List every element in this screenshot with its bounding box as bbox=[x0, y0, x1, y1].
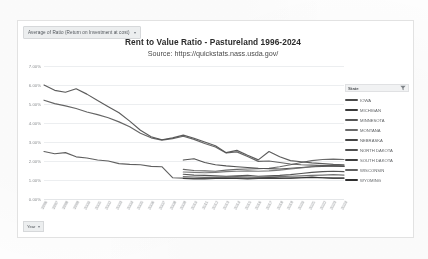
x-axis-tick-label: 2019 bbox=[286, 200, 295, 210]
legend-swatch bbox=[345, 99, 358, 101]
x-axis-tick-label: 2016 bbox=[254, 200, 263, 210]
legend-item-label: IOWA bbox=[360, 98, 371, 103]
x-axis-tick-label: 2009 bbox=[179, 200, 188, 210]
x-axis-tick-label: 2007 bbox=[158, 200, 167, 210]
legend-swatch bbox=[345, 159, 358, 161]
legend-rows: IOWAMICHIGANMINNESOTAMONTANANEBRASKANORT… bbox=[345, 95, 409, 185]
legend-item-label: NEBRASKA bbox=[360, 138, 383, 143]
x-axis-tick-label: 2013 bbox=[222, 200, 231, 210]
chart-subtitle-source: Source: https://quickstats.nass.usda.gov… bbox=[78, 49, 348, 58]
y-axis-tick-label: 5.00% bbox=[29, 102, 41, 107]
y-axis-tick-label: 3.00% bbox=[29, 140, 41, 145]
plot-area bbox=[44, 66, 344, 199]
x-axis-tick-label: 2003 bbox=[115, 200, 124, 210]
series-line bbox=[44, 85, 344, 165]
legend-item[interactable]: SOUTH DAKOTA bbox=[345, 155, 409, 165]
legend-header-label: State bbox=[348, 86, 359, 91]
x-axis-tick-label: 2018 bbox=[275, 200, 284, 210]
y-axis-tick-label: 0.00% bbox=[29, 197, 41, 202]
legend-item[interactable]: WYOMING bbox=[345, 175, 409, 185]
legend-item[interactable]: MINNESOTA bbox=[345, 115, 409, 125]
legend-swatch bbox=[345, 109, 358, 111]
x-axis-tick-label: 1997 bbox=[50, 200, 59, 210]
legend-swatch bbox=[345, 169, 358, 171]
legend-item[interactable]: NORTH DAKOTA bbox=[345, 145, 409, 155]
x-axis-tick-label: 2020 bbox=[297, 200, 306, 210]
filter-icon[interactable] bbox=[400, 85, 406, 91]
legend-item[interactable]: IOWA bbox=[345, 95, 409, 105]
x-axis-tick-label: 1999 bbox=[72, 200, 81, 210]
x-axis-tick-label: 2006 bbox=[147, 200, 156, 210]
x-axis-tick-label: 2024 bbox=[340, 200, 349, 210]
legend-item-label: WISCONSIN bbox=[360, 168, 384, 173]
legend-item[interactable]: WISCONSIN bbox=[345, 165, 409, 175]
legend-item[interactable]: NEBRASKA bbox=[345, 135, 409, 145]
x-axis-tick-label: 2005 bbox=[136, 200, 145, 210]
legend-item-label: MONTANA bbox=[360, 128, 381, 133]
x-axis-tick-label: 2008 bbox=[168, 200, 177, 210]
legend-item-label: MICHIGAN bbox=[360, 108, 381, 113]
y-axis-tick-label: 1.00% bbox=[29, 178, 41, 183]
legend-item-label: NORTH DAKOTA bbox=[360, 148, 393, 153]
legend-swatch bbox=[345, 179, 358, 181]
series-line bbox=[44, 100, 344, 166]
series-lines bbox=[44, 66, 344, 199]
legend-item[interactable]: MONTANA bbox=[345, 125, 409, 135]
y-axis-tick-label: 6.00% bbox=[29, 83, 41, 88]
x-axis-tick-label: 2000 bbox=[83, 200, 92, 210]
year-filter-label: Year bbox=[27, 224, 35, 229]
legend: State IOWAMICHIGANMINNESOTAMONTANANEBRAS… bbox=[345, 84, 409, 185]
x-axis-tick-label: 2021 bbox=[308, 200, 317, 210]
report-frame: Average of Ratio (Return on Investment a… bbox=[17, 20, 414, 238]
legend-swatch bbox=[345, 149, 358, 151]
x-axis-tick-label: 2012 bbox=[211, 200, 220, 210]
x-axis: 1996199719981999200020012002200320042005… bbox=[44, 200, 344, 230]
legend-item[interactable]: MICHIGAN bbox=[345, 105, 409, 115]
legend-item-label: SOUTH DAKOTA bbox=[360, 158, 393, 163]
legend-header[interactable]: State bbox=[345, 84, 409, 92]
x-axis-tick-label: 2011 bbox=[201, 200, 210, 210]
x-axis-tick-label: 2014 bbox=[233, 200, 242, 210]
chevron-down-icon: ▾ bbox=[38, 225, 40, 229]
x-axis-tick-label: 2004 bbox=[125, 200, 134, 210]
x-axis-tick-label: 2001 bbox=[93, 200, 102, 210]
legend-item-label: WYOMING bbox=[360, 178, 381, 183]
legend-swatch bbox=[345, 139, 358, 141]
x-axis-tick-label: 2022 bbox=[318, 200, 327, 210]
chart-title: Rent to Value Ratio - Pastureland 1996-2… bbox=[78, 37, 348, 47]
legend-item-label: MINNESOTA bbox=[360, 118, 385, 123]
x-axis-tick-label: 1998 bbox=[61, 200, 70, 210]
measure-filter-label: Average of Ratio (Return on Investment a… bbox=[28, 30, 130, 35]
legend-swatch bbox=[345, 129, 358, 131]
x-axis-tick-label: 2023 bbox=[329, 200, 338, 210]
x-axis-tick-label: 2015 bbox=[243, 200, 252, 210]
legend-swatch bbox=[345, 119, 358, 121]
chevron-down-icon: ▾ bbox=[134, 30, 136, 35]
x-axis-tick-label: 2002 bbox=[104, 200, 113, 210]
x-axis-tick-label: 1996 bbox=[40, 200, 49, 210]
x-axis-tick-label: 2017 bbox=[265, 200, 274, 210]
y-axis-tick-label: 2.00% bbox=[29, 159, 41, 164]
y-axis: 7.00%6.00%5.00%4.00%3.00%2.00%1.00%0.00% bbox=[18, 66, 44, 199]
title-block: Rent to Value Ratio - Pastureland 1996-2… bbox=[78, 37, 348, 58]
x-axis-tick-label: 2010 bbox=[190, 200, 199, 210]
year-filter-pill[interactable]: Year ▾ bbox=[23, 221, 44, 232]
y-axis-tick-label: 7.00% bbox=[29, 64, 41, 69]
y-axis-tick-label: 4.00% bbox=[29, 121, 41, 126]
